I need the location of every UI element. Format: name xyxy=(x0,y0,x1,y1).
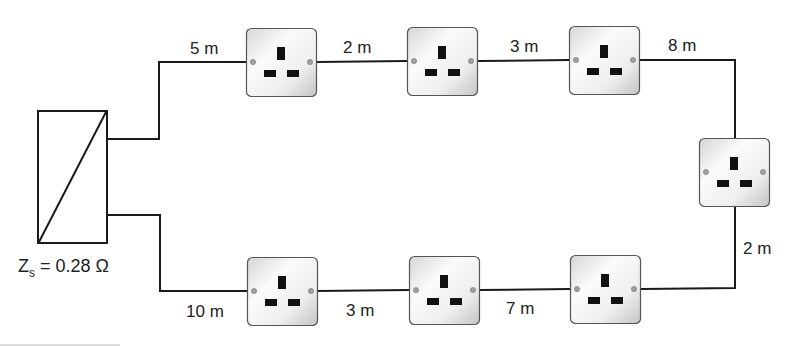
socket-outlet-icon xyxy=(408,28,478,96)
wire-supply-top xyxy=(107,62,246,139)
wire-top-1-2 xyxy=(317,61,407,62)
length-label-top-1: 5 m xyxy=(190,39,218,58)
supply-impedance-label: Zs = 0.28 Ω xyxy=(18,256,109,280)
socket-outlet-icon xyxy=(248,258,318,326)
socket-top-2 xyxy=(408,28,478,96)
length-label-top-2: 2 m xyxy=(343,38,371,57)
socket-outlet-icon xyxy=(247,29,317,97)
socket-top-1 xyxy=(247,29,317,97)
socket-bottom-2 xyxy=(410,257,480,325)
length-label-bottom-3: 7 m xyxy=(506,299,534,318)
wire-right-bottom-3 xyxy=(641,206,735,289)
length-label-right: 2 m xyxy=(743,239,771,258)
zs-value: = 0.28 Ω xyxy=(35,256,109,276)
socket-right xyxy=(700,139,770,207)
socket-outlet-icon xyxy=(410,257,480,325)
supply-box xyxy=(38,111,107,243)
socket-outlet-icon xyxy=(570,27,640,95)
wire-bottom-2-1 xyxy=(317,290,409,291)
zs-symbol: Z xyxy=(18,256,29,276)
wire-bottom-3-2 xyxy=(479,289,570,290)
wire-top-3-right xyxy=(640,60,735,138)
socket-top-3 xyxy=(570,27,640,95)
length-label-top-4: 8 m xyxy=(668,36,696,55)
socket-outlet-icon xyxy=(700,139,770,207)
socket-bottom-3 xyxy=(571,256,641,324)
wire-bottom-supply xyxy=(107,215,247,291)
socket-outlet-icon xyxy=(571,256,641,324)
length-label-bottom-1: 10 m xyxy=(186,302,224,321)
length-label-bottom-2: 3 m xyxy=(346,301,374,320)
ring-circuit-diagram: 5 m 2 m 3 m 8 m 2 m 7 m 3 m 10 m Zs = 0.… xyxy=(0,0,789,347)
length-label-top-3: 3 m xyxy=(510,37,538,56)
socket-bottom-1 xyxy=(248,258,318,326)
wire-top-2-3 xyxy=(478,60,569,61)
